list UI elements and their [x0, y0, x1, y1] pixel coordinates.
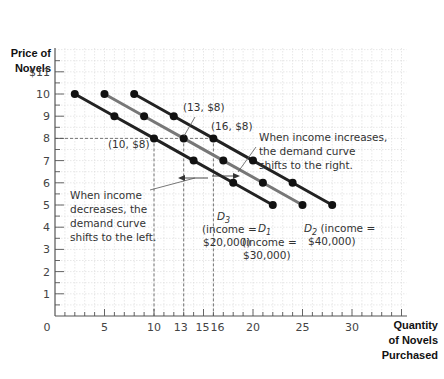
- data-point: [269, 201, 277, 209]
- svg-text:D1: D1: [258, 222, 271, 237]
- point-label-10-8: (10, $8): [108, 138, 150, 150]
- point-label-16-8: (16, $8): [211, 120, 253, 132]
- decrease-leader: [150, 178, 195, 190]
- x-tick-label: 15: [196, 321, 210, 334]
- data-point: [289, 179, 297, 187]
- data-point: [130, 90, 138, 98]
- y-tick-label: 8: [43, 132, 50, 145]
- y-tick-label: $11: [29, 66, 50, 79]
- demand-shift-chart: Price of Novels Quantity of Novels Purch…: [0, 0, 444, 379]
- x-axis-title-line1: Quantity: [393, 319, 438, 331]
- decrease-annotation-line3: demand curve: [70, 217, 146, 229]
- x-tick-label: 30: [345, 321, 359, 334]
- data-point: [71, 90, 79, 98]
- x-tick-label: 20: [246, 321, 260, 334]
- y-tick-label: 5: [43, 199, 50, 212]
- data-point: [249, 157, 257, 165]
- data-point: [140, 112, 148, 120]
- data-point: [229, 179, 237, 187]
- x-tick-label: 5: [101, 321, 108, 334]
- label-d2: D2 (income = $40,000): [304, 222, 375, 247]
- x-tick-label: 25: [296, 321, 310, 334]
- y-tick-label: 4: [43, 221, 50, 234]
- data-point: [328, 201, 336, 209]
- x-tick-label: 0: [44, 321, 51, 334]
- y-tick-label: 6: [43, 177, 50, 190]
- data-point: [299, 201, 307, 209]
- y-tick-label: 2: [43, 266, 50, 279]
- y-tick-label: 9: [43, 110, 50, 123]
- data-point: [219, 157, 227, 165]
- x-axis-title-line2: of Novels: [388, 334, 438, 346]
- svg-text:(income =: (income =: [202, 223, 257, 235]
- x-tick-label: 10: [147, 321, 161, 334]
- data-point: [190, 157, 198, 165]
- y-tick-label: 10: [36, 88, 50, 101]
- x-tick-label: 13: [174, 321, 188, 334]
- y-tick-label: 1: [43, 288, 50, 301]
- x-tick-label: 16: [210, 321, 224, 334]
- y-axis-title-line1: Price of: [11, 47, 52, 59]
- decrease-annotation-line1: When income: [70, 189, 142, 201]
- data-point: [150, 134, 158, 142]
- data-point: [110, 112, 118, 120]
- y-tick-label: 7: [43, 155, 50, 168]
- svg-text:$40,000): $40,000): [308, 235, 356, 247]
- increase-annotation-line1: When income increases,: [259, 131, 387, 143]
- data-point: [180, 134, 188, 142]
- svg-text:$30,000): $30,000): [243, 249, 291, 261]
- y-tick-label: 3: [43, 243, 50, 256]
- increase-annotation-line3: shifts to the right.: [259, 159, 353, 171]
- data-point: [101, 90, 109, 98]
- point-label-13-8: (13, $8): [183, 101, 225, 113]
- svg-text:(income =: (income =: [242, 236, 297, 248]
- x-axis-title-line3: Purchased: [382, 349, 438, 361]
- decrease-annotation-line4: shifts to the left.: [70, 231, 156, 243]
- increase-annotation-line2: the demand curve: [259, 145, 355, 157]
- decrease-annotation-line2: decreases, the: [70, 203, 147, 215]
- data-point: [170, 112, 178, 120]
- data-point: [259, 179, 267, 187]
- data-point: [209, 134, 217, 142]
